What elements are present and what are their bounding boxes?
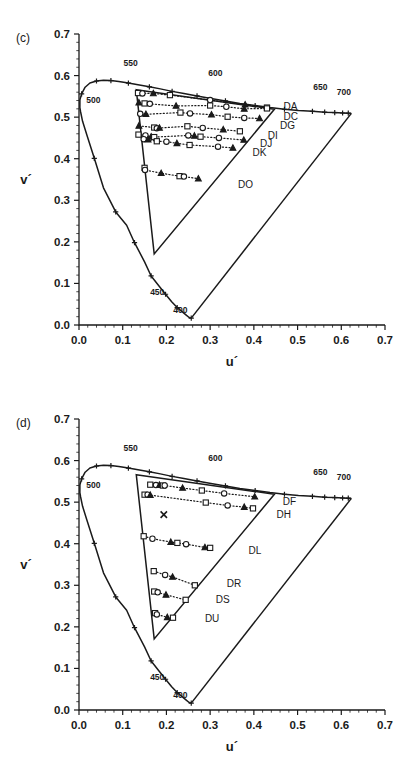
y-tick-label: 0.3 (54, 579, 70, 591)
series-label: DR (227, 578, 241, 589)
data-point-square (148, 482, 153, 487)
spectral-locus (80, 465, 351, 703)
data-point-circle (142, 167, 147, 172)
data-point-circle (181, 174, 186, 179)
data-point-circle (138, 111, 143, 116)
x-tick-label: 0.1 (115, 719, 132, 731)
y-tick-label: 0.0 (54, 704, 70, 716)
data-point-square (136, 132, 141, 137)
data-point-square (183, 597, 188, 602)
y-tick-label: 0.6 (54, 70, 70, 82)
y-tick-label: 0.6 (54, 455, 70, 467)
x-tick-label: 0.7 (377, 334, 393, 346)
data-point-cross (161, 511, 167, 517)
x-tick-label: 0.1 (115, 334, 132, 346)
axes (74, 419, 385, 715)
x-tick-label: 0.6 (333, 334, 349, 346)
x-tick-label: 0.3 (202, 334, 218, 346)
y-tick-label: 0.3 (54, 194, 70, 206)
data-point-triangle (192, 133, 198, 138)
data-point-circle (207, 97, 212, 102)
wavelength-label: 550 (123, 443, 137, 453)
data-point-circle (216, 135, 221, 140)
x-tick-label: 0.2 (158, 334, 174, 346)
x-tick-label: 0.4 (246, 719, 263, 731)
wavelength-label: 600 (208, 68, 222, 78)
data-series (152, 589, 189, 603)
y-tick-label: 0.4 (54, 538, 71, 550)
locus-tick (322, 495, 327, 500)
x-axis-title: u´ (226, 739, 238, 754)
data-point-circle (215, 144, 220, 149)
data-point-square (208, 103, 213, 108)
locus-tick (94, 463, 99, 468)
data-point-triangle (241, 137, 247, 142)
y-tick-label: 0.7 (54, 28, 70, 40)
spectral-locus (80, 80, 351, 318)
wavelength-labels: 400450500550600650700 (86, 58, 351, 315)
locus-tick (79, 476, 84, 481)
data-point-square (167, 93, 172, 98)
x-tick-label: 0.7 (377, 719, 393, 731)
panel-d: 0.00.10.20.30.40.50.60.70.00.10.20.30.40… (0, 385, 419, 770)
series-dotted-line (145, 168, 199, 179)
data-series (141, 534, 213, 551)
tick-labels: 0.00.10.20.30.40.50.60.70.00.10.20.30.40… (54, 28, 393, 346)
locus-tick (310, 109, 315, 114)
locus-tick (92, 156, 97, 161)
wavelength-label: 500 (86, 480, 100, 490)
y-tick-label: 0.7 (54, 413, 70, 425)
data-point-triangle (163, 592, 169, 597)
series-label: DF (283, 496, 296, 507)
locus-ticks (79, 78, 351, 321)
data-point-circle (162, 572, 167, 577)
data-point-square (170, 615, 175, 620)
locus-tick (108, 463, 113, 468)
data-series (151, 569, 197, 588)
data-point-square (208, 545, 213, 550)
axis-lines (79, 419, 385, 710)
x-tick-label: 0.4 (246, 334, 263, 346)
data-point-triangle (195, 176, 201, 181)
x-tick-label: 0.2 (158, 719, 174, 731)
locus-tick (147, 84, 152, 89)
data-point-triangle (180, 485, 186, 490)
locus-tick (147, 469, 152, 474)
y-tick-label: 0.1 (54, 662, 71, 674)
data-point-circle (154, 612, 159, 617)
data-series (136, 123, 242, 134)
wavelength-label: 550 (123, 58, 137, 68)
tick-labels: 0.00.10.20.30.40.50.60.70.00.10.20.30.40… (54, 413, 393, 731)
series-label: DU (205, 613, 219, 624)
panel-tag: (c) (16, 31, 30, 45)
data-series (135, 90, 269, 110)
data-point-circle (147, 101, 152, 106)
data-point-square (250, 506, 255, 511)
locus-tick (310, 494, 315, 499)
data-point-triangle (252, 494, 258, 499)
x-tick-label: 0.3 (202, 719, 218, 731)
data-point-triangle (209, 112, 215, 117)
series-dotted-line (145, 495, 253, 509)
data-point-square (192, 583, 197, 588)
data-point-triangle (241, 504, 247, 509)
data-point-triangle (202, 544, 208, 549)
data-point-triangle (173, 103, 179, 108)
data-point-square (225, 114, 230, 119)
locus-tick (170, 474, 175, 479)
data-point-triangle (220, 127, 226, 132)
data-point-square (154, 139, 159, 144)
data-point-square (175, 540, 180, 545)
data-point-circle (225, 503, 230, 508)
data-point-circle (186, 133, 191, 138)
isolated-markers (161, 511, 167, 517)
locus-tick (79, 91, 84, 96)
wavelength-label: 700 (337, 472, 351, 482)
y-tick-label: 0.2 (54, 236, 70, 248)
x-tick-label: 0.0 (71, 334, 87, 346)
data-point-circle (200, 125, 205, 130)
data-point-circle (150, 536, 155, 541)
data-point-circle (183, 541, 188, 546)
data-series-group (141, 482, 258, 620)
data-point-square (203, 500, 208, 505)
